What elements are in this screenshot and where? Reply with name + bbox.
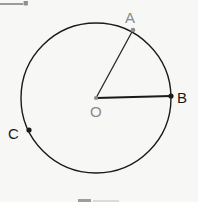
point-c-dot [26,127,31,132]
circle-diagram-svg [0,0,198,202]
center-point-o-dot [94,96,98,100]
center-label-o: O [90,104,102,119]
point-b-label: B [177,90,187,105]
cropped-bottom-glyph [78,199,91,202]
point-b-dot [168,93,173,98]
point-c-label: C [8,126,19,141]
cropped-bottom-glyph-tail [93,200,119,202]
point-a-dot [131,28,136,33]
circle-figure-canvas: ■ A B C O [0,0,198,202]
point-a-label: A [125,10,135,25]
radius-line-ob [96,96,171,98]
radius-line-oa [96,30,133,98]
